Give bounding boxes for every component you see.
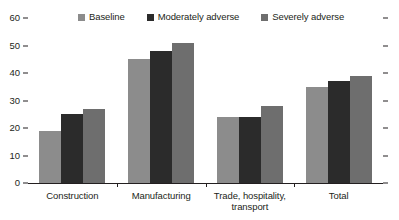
category-separator: [294, 183, 295, 187]
y-tick-label: 10: [0, 151, 20, 161]
bar[interactable]: [239, 117, 261, 183]
bar[interactable]: [83, 109, 105, 183]
category-label-line: Total: [294, 190, 383, 201]
category-label-3: Total: [294, 190, 383, 201]
bar[interactable]: [172, 43, 194, 183]
y-tick-mark-right: [383, 155, 388, 156]
category-label-1: Manufacturing: [117, 190, 206, 201]
category-label-0: Construction: [28, 190, 117, 201]
y-tick-mark-right: [383, 183, 388, 184]
y-tick-label: 60: [0, 13, 20, 23]
y-tick-mark-right: [383, 18, 388, 19]
bar[interactable]: [328, 81, 350, 183]
category-separator: [117, 183, 118, 187]
y-tick-mark-right: [383, 73, 388, 74]
category-label-2: Trade, hospitality,transport: [206, 190, 295, 212]
bar[interactable]: [150, 51, 172, 183]
bar-group-1: [117, 18, 206, 183]
plot-area: [28, 18, 383, 183]
y-tick-mark-right: [383, 45, 388, 46]
category-label-line: Trade, hospitality,: [206, 190, 295, 201]
category-separator: [206, 183, 207, 187]
y-tick-label: 40: [0, 68, 20, 78]
category-label-line: transport: [206, 201, 295, 212]
category-label-line: Construction: [28, 190, 117, 201]
y-tick-label: 20: [0, 123, 20, 133]
bar[interactable]: [217, 117, 239, 183]
y-tick-mark-right: [383, 128, 388, 129]
y-tick-label: 30: [0, 96, 20, 106]
category-label-line: Manufacturing: [117, 190, 206, 201]
bar-group-3: [294, 18, 383, 183]
bar-chart: BaselineModerately adverseSeverely adver…: [0, 0, 399, 220]
bar[interactable]: [61, 114, 83, 183]
y-tick-label: 50: [0, 41, 20, 51]
bar[interactable]: [39, 131, 61, 183]
bar[interactable]: [306, 87, 328, 183]
bar[interactable]: [350, 76, 372, 183]
bar-group-0: [28, 18, 117, 183]
y-tick-mark-right: [383, 100, 388, 101]
bar[interactable]: [128, 59, 150, 183]
bar[interactable]: [261, 106, 283, 183]
bar-group-2: [206, 18, 295, 183]
y-tick-label: 0: [0, 178, 20, 188]
